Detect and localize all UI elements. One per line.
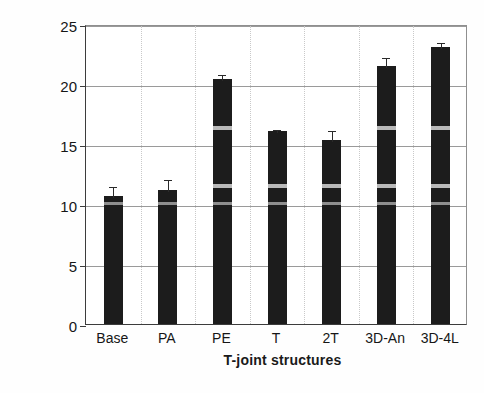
y-tick-mark <box>80 86 86 87</box>
bar-stripe <box>322 184 341 188</box>
y-gridline <box>86 26 466 27</box>
x-gridline <box>413 26 414 324</box>
x-gridline <box>141 26 142 324</box>
y-tick-mark <box>80 146 86 147</box>
bar-stripe <box>431 126 450 130</box>
bar-stripe <box>431 184 450 188</box>
error-bar-cap <box>273 130 281 131</box>
bar-stripe <box>213 202 232 205</box>
y-tick-label: 0 <box>69 318 77 335</box>
bar-stripe <box>104 202 123 205</box>
bar-stripe <box>268 184 287 188</box>
chart-figure: Strength (MPa) 0510152025 T-joint struct… <box>0 0 484 393</box>
x-tick-label: 3D-An <box>365 330 405 346</box>
y-tick-mark <box>80 26 86 27</box>
bar-base <box>104 196 123 324</box>
x-tick-label: 3D-4L <box>421 330 459 346</box>
bar-stripe <box>158 202 177 205</box>
y-tick-label: 20 <box>60 78 77 95</box>
x-tick-label: PE <box>212 330 231 346</box>
y-tick-mark <box>80 206 86 207</box>
error-bar <box>386 58 387 68</box>
bar-stripe <box>213 184 232 188</box>
y-axis-title: Strength (MPa) <box>10 0 38 56</box>
y-tick-label: 5 <box>69 258 77 275</box>
bar-stripe <box>377 184 396 188</box>
x-axis-title: T-joint structures <box>85 352 480 368</box>
bar-pe <box>213 79 232 324</box>
bar-stripe <box>377 126 396 130</box>
bar-pa <box>158 190 177 324</box>
x-gridline <box>304 26 305 324</box>
bar-stripe <box>322 202 341 205</box>
error-bar-cap <box>109 187 117 188</box>
error-bar-cap <box>437 43 445 44</box>
x-tick-label: T <box>272 330 281 346</box>
bar-2t <box>322 140 341 324</box>
error-bar-cap <box>328 131 336 132</box>
bar-stripe <box>377 202 396 205</box>
x-gridline <box>250 26 251 324</box>
y-tick-mark <box>80 326 86 327</box>
error-bar-cap <box>164 180 172 181</box>
bar-stripe <box>268 202 287 205</box>
y-tick-label: 10 <box>60 198 77 215</box>
error-bar <box>113 187 114 197</box>
y-tick-label: 25 <box>60 18 77 35</box>
y-gridline <box>86 86 466 87</box>
error-bar-cap <box>218 75 226 76</box>
y-tick-mark <box>80 266 86 267</box>
bar-stripe <box>431 202 450 205</box>
error-bar-cap <box>382 58 390 59</box>
bar-3d-an <box>377 66 396 324</box>
y-tick-label: 15 <box>60 138 77 155</box>
x-tick-label: PA <box>158 330 176 346</box>
bar-stripe <box>213 126 232 130</box>
x-gridline <box>359 26 360 324</box>
error-bar <box>332 131 333 142</box>
bar-3d-4l <box>431 47 450 324</box>
x-tick-label: Base <box>96 330 128 346</box>
plot-area: 0510152025 <box>85 25 467 325</box>
bar-t <box>268 131 287 324</box>
x-gridline <box>195 26 196 324</box>
x-tick-label: 2T <box>322 330 338 346</box>
error-bar <box>168 180 169 191</box>
